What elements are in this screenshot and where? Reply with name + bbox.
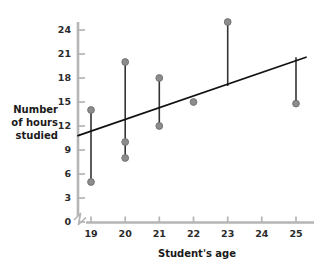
y-tick-label: 12 xyxy=(58,120,71,131)
data-point xyxy=(122,139,129,146)
y-axis-title: Number of hours studied xyxy=(11,104,58,141)
x-tick-label: 22 xyxy=(187,228,200,239)
data-point xyxy=(293,100,300,107)
y-axis-title-line: of hours xyxy=(11,117,58,128)
x-axis-title: Student's age xyxy=(158,248,236,259)
y-tick-label: 6 xyxy=(64,168,71,179)
trend-line xyxy=(78,57,306,135)
y-axis-title-line: studied xyxy=(16,130,58,141)
data-point xyxy=(156,123,163,130)
data-point xyxy=(88,179,95,186)
x-tick-label: 23 xyxy=(221,228,234,239)
data-point xyxy=(224,19,231,26)
y-tick-label: 18 xyxy=(58,72,72,83)
data-point xyxy=(122,155,129,162)
axis-break-icon xyxy=(75,214,86,225)
data-point xyxy=(190,99,197,106)
x-axis-ticks xyxy=(91,217,296,223)
x-tick-label: 24 xyxy=(255,228,269,239)
data-point xyxy=(122,59,129,66)
y-tick-label: 21 xyxy=(58,48,71,59)
data-points xyxy=(88,19,300,186)
x-tick-label: 21 xyxy=(153,228,166,239)
y-tick-label: 15 xyxy=(58,96,71,107)
y-tick-label: 0 xyxy=(64,216,71,227)
x-tick-label: 25 xyxy=(289,228,302,239)
x-tick-label: 20 xyxy=(119,228,133,239)
data-point xyxy=(88,107,95,114)
data-point xyxy=(156,75,163,82)
x-axis-tick-labels: 19 20 21 22 23 24 25 xyxy=(84,228,302,239)
x-tick-label: 19 xyxy=(84,228,97,239)
y-tick-label: 3 xyxy=(64,192,71,203)
y-tick-label: 24 xyxy=(58,24,72,35)
y-axis-ticks xyxy=(79,30,85,222)
y-tick-label: 9 xyxy=(64,144,71,155)
y-axis-tick-labels: 0 3 6 9 12 15 18 21 24 xyxy=(58,24,72,227)
y-axis-title-line: Number xyxy=(13,104,58,115)
chart-canvas: 0 3 6 9 12 15 18 21 24 19 20 21 22 23 24… xyxy=(0,0,323,272)
scatter-plot-figure: 0 3 6 9 12 15 18 21 24 19 20 21 22 23 24… xyxy=(0,0,323,272)
